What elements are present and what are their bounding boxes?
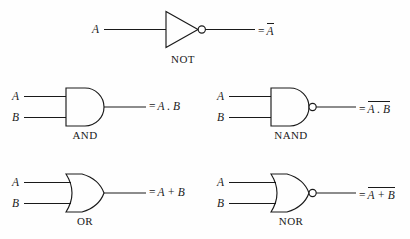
and-input-label-b: B: [12, 112, 19, 124]
or-input-label-b: B: [12, 198, 19, 210]
nand-equals-sign: =: [359, 103, 366, 115]
nor-input-label-b: B: [217, 198, 224, 210]
not-gate-symbol: [104, 12, 255, 48]
nand-gate-body: [271, 88, 309, 126]
and-output-operand: A . B: [158, 100, 180, 112]
and-gate-body: [66, 88, 104, 126]
nor-output-operand: A + B: [368, 189, 395, 201]
not-gate-name: NOT: [166, 54, 200, 65]
gate-symbols-canvas: [0, 0, 410, 239]
nand-input-label-a: A: [217, 91, 224, 103]
nand-overbar-group: A . B: [368, 101, 390, 115]
nand-output-operand: A . B: [368, 103, 390, 115]
or-gate-name: OR: [66, 216, 104, 227]
nor-gate-body: [271, 174, 309, 212]
and-gate-symbol: [24, 88, 146, 126]
not-gate-triangle: [166, 12, 198, 48]
and-input-label-a: A: [12, 91, 19, 103]
nor-output-expression: =A + B: [359, 187, 395, 202]
not-output-operand: A: [267, 25, 274, 37]
not-output-expression: =A: [258, 23, 274, 38]
nand-gate-inversion-bubble: [309, 103, 316, 110]
nand-gate-symbol: [229, 88, 356, 126]
or-gate-symbol: [24, 174, 146, 212]
nor-gate-inversion-bubble: [309, 189, 316, 196]
or-input-label-a: A: [12, 177, 19, 189]
logic-gates-diagram: A NOT =A A B AND =A . B A B NAND =A . B …: [0, 0, 410, 239]
nor-gate-name: NOR: [268, 216, 314, 227]
not-input-label-a: A: [92, 24, 99, 36]
or-output-operand: A + B: [158, 186, 185, 198]
nand-output-expression: =A . B: [359, 101, 390, 116]
nor-equals-sign: =: [359, 189, 366, 201]
or-output-expression: =A + B: [149, 187, 185, 199]
nor-overbar-group: A + B: [368, 187, 395, 201]
or-equals-sign: =: [149, 186, 156, 198]
nor-gate-symbol: [229, 174, 356, 212]
and-gate-name: AND: [64, 130, 106, 141]
not-overbar-group: A: [267, 23, 274, 37]
and-output-expression: =A . B: [149, 101, 180, 113]
not-equals-sign: =: [258, 25, 265, 37]
and-equals-sign: =: [149, 100, 156, 112]
or-gate-body: [66, 174, 104, 212]
nand-input-label-b: B: [217, 112, 224, 124]
nand-gate-name: NAND: [266, 130, 316, 141]
not-gate-inversion-bubble: [198, 26, 205, 33]
nor-input-label-a: A: [217, 177, 224, 189]
